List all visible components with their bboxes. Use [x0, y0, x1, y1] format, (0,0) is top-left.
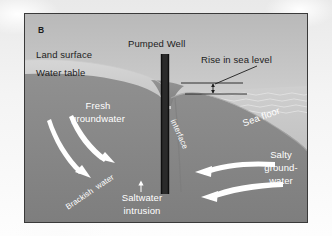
- label-salty-groundwater-line2: ground-: [247, 162, 308, 173]
- label-salty-groundwater-line3: water: [252, 175, 308, 186]
- label-salty-groundwater-line1: Salty: [252, 149, 308, 160]
- well-casing-icon: [162, 54, 169, 194]
- label-saltwater-intrusion-line1: Saltwater: [107, 192, 177, 203]
- figure-frame: B Land surface Water table Pumped Well R…: [24, 13, 308, 223]
- panel-label: B: [38, 25, 44, 35]
- figure-page: B Land surface Water table Pumped Well R…: [0, 0, 332, 236]
- label-water-table: Water table: [36, 67, 85, 78]
- label-saltwater-intrusion-line2: intrusion: [107, 205, 177, 216]
- label-fresh-groundwater-line2: groundwater: [47, 113, 149, 124]
- label-rise-in-sea-level: Rise in sea level: [201, 54, 272, 65]
- label-fresh-groundwater-line1: Fresh: [53, 100, 143, 111]
- label-pumped-well: Pumped Well: [128, 38, 185, 49]
- label-land-surface: Land surface: [36, 49, 92, 60]
